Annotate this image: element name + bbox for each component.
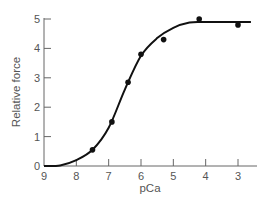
y-tick-label: 1 [34, 131, 40, 143]
y-tick-label: 3 [34, 72, 40, 84]
x-tick-label: 4 [203, 170, 209, 182]
chart: 012345 9876543 pCa Relative force [0, 0, 269, 205]
x-axis-title: pCa [139, 182, 161, 194]
data-point [90, 147, 96, 153]
x-tick-label: 7 [106, 170, 112, 182]
y-tick-label: 2 [34, 101, 40, 113]
data-point [235, 22, 241, 28]
y-tick-label: 5 [34, 13, 40, 25]
data-point [138, 51, 144, 57]
x-tick-label: 8 [73, 170, 79, 182]
y-tick-label: 0 [34, 160, 40, 172]
data-points [90, 16, 241, 152]
x-tick-label: 9 [41, 170, 47, 182]
y-axis-title: Relative force [10, 57, 22, 127]
data-point [161, 37, 167, 43]
data-point [125, 79, 131, 85]
fitted-curve [44, 22, 251, 166]
y-ticks: 012345 [34, 13, 51, 172]
x-tick-label: 5 [170, 170, 176, 182]
x-tick-label: 6 [138, 170, 144, 182]
data-point [109, 119, 115, 125]
y-tick-label: 4 [34, 42, 40, 54]
data-point [196, 16, 202, 22]
x-tick-label: 3 [235, 170, 241, 182]
